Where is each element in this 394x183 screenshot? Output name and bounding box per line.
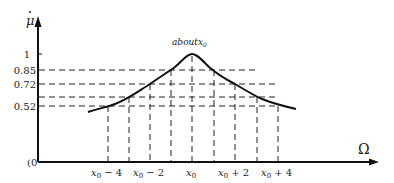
x-tick-label-x0+2: x0 + 2 [218,167,249,180]
y-tick-label-1: 1 [24,49,30,60]
derivative-dot-icon [29,11,31,13]
y-axis-arrow-icon [35,16,42,27]
x-tick-label-x0-4: x0 − 4 [91,167,122,180]
x-tick-label-x0-2: x0 − 2 [133,167,164,180]
x-tick-label-x0: x0 [186,167,196,180]
peak-annotation: aboutx0 [172,37,207,48]
y-axis-label: μ [26,13,34,28]
x-axis-arrow-icon [369,159,379,166]
membership-function-diagram: μ Ω 1 0.85 0.72 0.52 (0 aboutx0 x0 − 4 x… [0,0,394,183]
y-tick-label-0.72: 0.72 [14,79,36,90]
projection-lines [39,56,278,162]
y-tick-label-0.85: 0.85 [14,65,36,76]
y-tick-label-0.52: 0.52 [14,101,36,112]
membership-curve [88,54,296,112]
x-tick-label-x0+4: x0 + 4 [261,167,292,180]
x-axis-label: Ω [358,141,370,157]
origin-label: (0 [27,157,37,168]
x-tick-labels: x0 − 4 x0 − 2 x0 x0 + 2 x0 + 4 [91,167,292,180]
